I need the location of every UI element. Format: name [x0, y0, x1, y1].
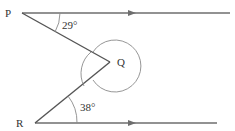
point-label-r: R [16, 117, 24, 129]
diagram-canvas: P Q R 29° 38° [0, 0, 235, 131]
angle-arc-r [68, 96, 77, 123]
bottom-arrow-icon [128, 120, 136, 126]
top-arrow-icon [128, 10, 136, 16]
geometry-diagram: P Q R 29° 38° [0, 0, 235, 131]
segment-qr [35, 62, 110, 123]
angle-label-top: 29° [62, 19, 77, 31]
angle-arc-p [55, 13, 60, 32]
angle-label-bottom: 38° [80, 101, 95, 113]
point-label-p: P [5, 7, 11, 19]
point-label-q: Q [117, 56, 125, 68]
